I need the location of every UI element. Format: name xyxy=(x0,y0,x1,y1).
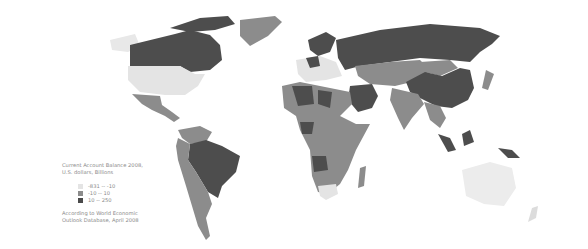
region-borneo xyxy=(462,130,474,146)
legend-item-low: -831 -- -10 xyxy=(78,183,182,190)
region-angola xyxy=(312,156,328,172)
legend-source-line2: Outlook Database, April 2008 xyxy=(62,217,182,224)
region-scandinavia xyxy=(308,32,336,56)
region-nigeria xyxy=(300,122,314,134)
region-new-guinea xyxy=(498,148,520,158)
region-japan xyxy=(482,70,494,90)
legend-items: -831 -- -10 -10 -- 10 10 -- 250 xyxy=(78,183,182,204)
legend-label-mid: -10 -- 10 xyxy=(88,190,110,197)
legend-swatch-low xyxy=(78,184,83,189)
legend-source-line1: According to World Economic xyxy=(62,210,182,217)
region-canada xyxy=(130,30,222,72)
region-madagascar xyxy=(358,166,366,188)
legend-label-low: -831 -- -10 xyxy=(88,183,115,190)
region-arctic-islands xyxy=(170,16,235,32)
map-legend: Current Account Balance 2008, U.S. dolla… xyxy=(62,162,182,224)
region-new-zealand xyxy=(528,206,538,222)
legend-swatch-mid xyxy=(78,191,83,196)
region-mexico xyxy=(132,94,180,122)
legend-title-line2: U.S. dollars, Billions xyxy=(62,169,182,176)
region-greenland xyxy=(240,16,282,46)
region-australia xyxy=(462,162,516,206)
region-south-africa xyxy=(318,184,338,200)
region-middle-east xyxy=(348,84,378,112)
legend-label-high: 10 -- 250 xyxy=(88,197,112,204)
legend-item-mid: -10 -- 10 xyxy=(78,190,182,197)
legend-item-high: 10 -- 250 xyxy=(78,197,182,204)
region-indonesia xyxy=(438,134,456,152)
region-western-europe xyxy=(296,56,342,82)
legend-swatch-high xyxy=(78,198,83,203)
legend-title-line1: Current Account Balance 2008, xyxy=(62,162,182,169)
